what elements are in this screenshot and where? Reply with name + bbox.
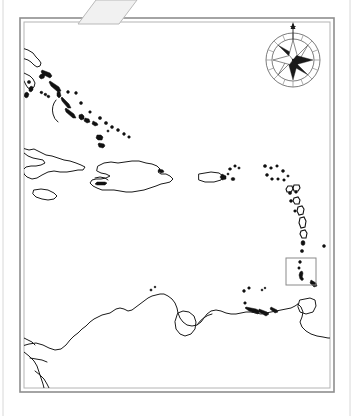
- hispaniola-lake: [95, 182, 107, 185]
- compass-center-dot: [292, 59, 294, 61]
- map-canvas: [0, 0, 354, 416]
- map-page: Caribbean Region Outline Map: [0, 0, 354, 416]
